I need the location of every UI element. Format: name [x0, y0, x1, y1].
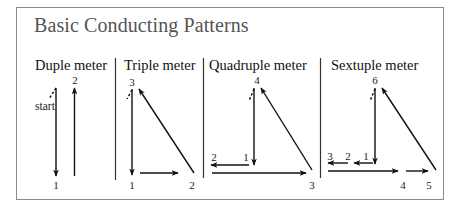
sextuple-beat-1: 1 [363, 150, 369, 162]
triple-dashed-prep [127, 90, 132, 99]
start-label: start [35, 100, 56, 112]
sextuple-beat-3: 3 [327, 150, 333, 162]
quadruple-beat-4: 4 [254, 74, 260, 86]
quadruple-pattern [211, 88, 312, 173]
column-separators [116, 58, 321, 180]
quadruple-dashed-prep [249, 89, 254, 101]
sextuple-beat-6: 6 [372, 74, 378, 86]
triple-pattern [127, 89, 194, 175]
sextuple-dashed-prep [370, 89, 375, 101]
duple-beat-1: 1 [53, 179, 59, 191]
triple-diagonal-arrow [139, 89, 194, 173]
quadruple-beat-3: 3 [309, 179, 315, 191]
triple-beat-2: 2 [189, 179, 195, 191]
sextuple-beat-4: 4 [400, 179, 406, 191]
quadruple-diagonal-arrow [261, 88, 312, 170]
sextuple-pattern [328, 88, 436, 171]
triple-beat-3: 3 [129, 76, 135, 88]
quadruple-beat-1: 1 [243, 151, 249, 163]
sextuple-beat-2: 2 [345, 150, 351, 162]
start-dashed-prep [49, 88, 56, 99]
conducting-patterns-diagram: start 1 2 1 2 3 1 2 3 4 1 2 3 4 5 6 [0, 0, 466, 209]
quadruple-beat-2: 2 [211, 151, 217, 163]
sextuple-beat-5: 5 [426, 179, 432, 191]
triple-beat-1: 1 [129, 179, 135, 191]
sextuple-diagonal-arrow [382, 88, 436, 170]
duple-beat-2: 2 [72, 74, 78, 86]
